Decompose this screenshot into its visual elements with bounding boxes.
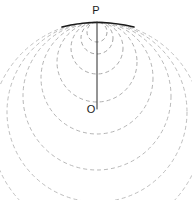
figure-background bbox=[0, 0, 192, 200]
diagram-canvas: P O bbox=[0, 0, 192, 200]
tangent-circles-figure: P O bbox=[0, 0, 192, 200]
point-p-label: P bbox=[92, 4, 99, 16]
point-o-label: O bbox=[87, 103, 96, 115]
